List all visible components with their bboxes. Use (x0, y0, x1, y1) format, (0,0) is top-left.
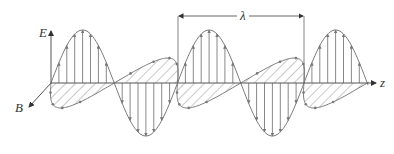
e-axis-label: E (39, 26, 47, 39)
em-wave-diagram: E B z λ (0, 0, 394, 154)
b-axis-label: B (15, 101, 23, 114)
z-axis-label: z (380, 76, 385, 89)
wave-graphic (0, 0, 394, 154)
wavelength-label: λ (237, 9, 249, 22)
